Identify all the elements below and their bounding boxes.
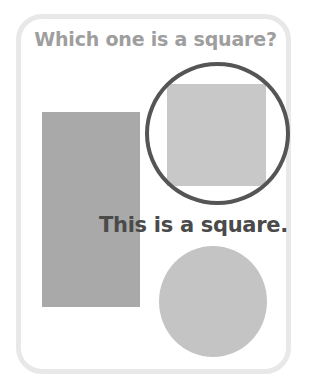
- rectangle-shape[interactable]: [42, 112, 140, 307]
- answer-label: This is a square.: [99, 213, 288, 237]
- circle-shape[interactable]: [159, 246, 267, 357]
- question-text: Which one is a square?: [0, 28, 311, 50]
- highlight-ring: [145, 62, 290, 205]
